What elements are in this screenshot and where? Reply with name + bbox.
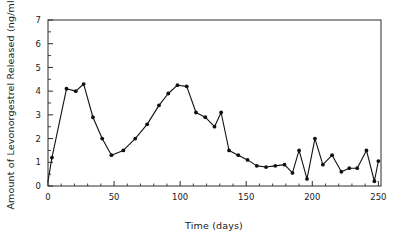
data-point — [91, 115, 95, 119]
data-point — [213, 125, 217, 129]
data-point — [273, 164, 277, 168]
data-point — [203, 115, 207, 119]
y-tick-label: 5 — [36, 63, 41, 73]
data-point — [246, 158, 250, 162]
data-point — [110, 153, 114, 157]
data-point — [133, 137, 137, 141]
data-point — [305, 177, 309, 181]
y-tick-label: 7 — [36, 15, 41, 25]
data-point — [264, 165, 268, 169]
data-point — [365, 149, 369, 153]
x-tick-label: 200 — [304, 192, 320, 202]
y-tick-label: 4 — [36, 86, 41, 96]
data-point — [376, 159, 380, 163]
y-tick-label: 2 — [36, 134, 41, 144]
data-point — [297, 149, 301, 153]
data-point — [283, 163, 287, 167]
data-point — [100, 137, 104, 141]
x-tick-label: 0 — [45, 192, 50, 202]
data-point — [347, 166, 351, 170]
data-point — [219, 111, 223, 115]
data-point — [121, 149, 125, 153]
data-point — [330, 153, 334, 157]
data-point — [50, 156, 54, 160]
data-point — [65, 87, 69, 91]
y-tick-label: 0 — [36, 181, 41, 191]
x-tick-label: 150 — [238, 192, 254, 202]
levonorgestrel-release-chart: 01234567 050100150200250 Amount of Levon… — [0, 0, 396, 247]
data-point — [82, 82, 86, 86]
x-tick-label: 250 — [370, 192, 386, 202]
data-point — [185, 85, 189, 89]
data-point — [291, 171, 295, 175]
data-point — [339, 170, 343, 174]
data-point — [255, 164, 259, 168]
data-point — [355, 166, 359, 170]
data-point — [194, 111, 198, 115]
y-tick-label: 3 — [36, 110, 41, 120]
data-point — [74, 89, 78, 93]
y-tick-label: 1 — [36, 157, 41, 167]
data-point — [227, 149, 231, 153]
data-point — [313, 137, 317, 141]
x-tick-label: 100 — [172, 192, 188, 202]
data-point — [176, 83, 180, 87]
data-point — [236, 153, 240, 157]
data-point — [321, 163, 325, 167]
y-axis-title: Amount of Levonorgestrel Released (ng/ml… — [5, 0, 16, 210]
data-point — [372, 179, 376, 183]
x-axis-title: Time (days) — [184, 220, 243, 231]
data-point — [157, 103, 161, 107]
x-tick-label: 50 — [109, 192, 120, 202]
data-point — [166, 92, 170, 96]
data-point — [145, 122, 149, 126]
y-tick-label: 6 — [36, 39, 41, 49]
